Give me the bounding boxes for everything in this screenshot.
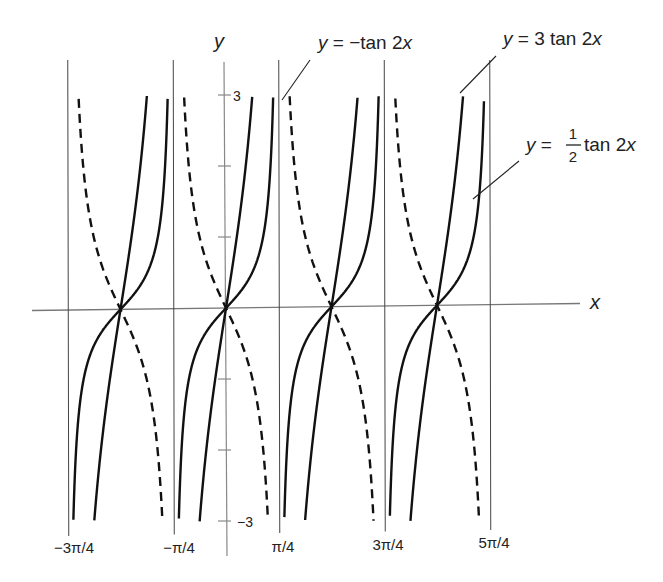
x-axis-label: x (589, 291, 601, 313)
leader-neg-tan (282, 60, 310, 100)
leader-three-tan (460, 56, 496, 93)
asymptote-line (68, 60, 69, 536)
svg-text:y =: y = (524, 134, 552, 155)
x-axis (32, 303, 580, 310)
asymptote-line (279, 60, 280, 533)
annotation-three-tan: y = 3 tan 2x (501, 28, 603, 49)
curve-3tan2x (410, 96, 463, 521)
x-tick-label: 3π/4 (372, 536, 403, 553)
svg-text:tan 2x: tan 2x (584, 134, 637, 155)
annotation-neg-tan: y = −tan 2x (316, 32, 414, 53)
asymptote-line (490, 60, 491, 530)
x-tick-label: π/4 (272, 538, 295, 555)
svg-text:2: 2 (569, 148, 577, 165)
x-tick-label: −π/4 (163, 539, 195, 556)
asymptote-line (173, 60, 174, 535)
annotation-half-tan: y = 1 2 tan 2x (524, 125, 637, 165)
x-tick-label: 5π/4 (478, 534, 509, 551)
y-tick-label-bottom: −3 (237, 514, 253, 530)
tangent-graph: y x 3 −3 −3π/4 −π/4 π/4 3π/4 5π/4 y = −t… (0, 0, 663, 582)
asymptote-line (384, 60, 385, 532)
svg-text:y = −tan 2x: y = −tan 2x (316, 32, 414, 53)
plot-area: y x 3 −3 −3π/4 −π/4 π/4 3π/4 5π/4 y = −t… (0, 0, 663, 582)
curve-neg-tan2x (290, 96, 374, 521)
y-tick-label-top: 3 (233, 88, 241, 104)
y-axis-label: y (212, 30, 225, 52)
x-tick-label: −3π/4 (54, 539, 94, 556)
svg-text:1: 1 (569, 125, 577, 142)
axes (32, 62, 580, 556)
svg-text:y = 3 tan 2x: y = 3 tan 2x (501, 28, 603, 49)
